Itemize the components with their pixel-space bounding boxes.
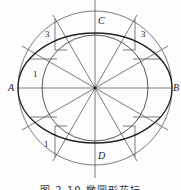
- region-label-1-bottom: 1: [44, 140, 49, 149]
- ellipse-construction-diagram: [0, 0, 181, 190]
- label-d: D: [98, 151, 105, 161]
- region-label-1-left: 1: [33, 70, 38, 79]
- label-b: B: [173, 83, 179, 93]
- center-point: [94, 87, 97, 90]
- region-label-3-right: 3: [141, 30, 146, 39]
- label-a: A: [8, 83, 14, 93]
- figure-caption: 图 2.10 椭圆形花坛: [0, 182, 181, 190]
- region-label-3-left: 3: [45, 30, 50, 39]
- label-c: C: [98, 16, 105, 26]
